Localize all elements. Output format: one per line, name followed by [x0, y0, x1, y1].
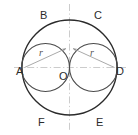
radius-leader-left: [25, 49, 67, 68]
radius-label-right: r: [90, 48, 94, 58]
point-label-A: A: [16, 66, 23, 77]
geometry-diagram: A B C D E F O r r: [0, 0, 138, 135]
point-label-E: E: [96, 117, 103, 128]
radius-label-left: r: [39, 48, 43, 58]
point-label-O: O: [59, 71, 68, 82]
point-label-F: F: [38, 117, 45, 128]
point-label-D: D: [116, 66, 124, 77]
point-label-C: C: [94, 10, 102, 21]
point-label-B: B: [40, 10, 47, 21]
